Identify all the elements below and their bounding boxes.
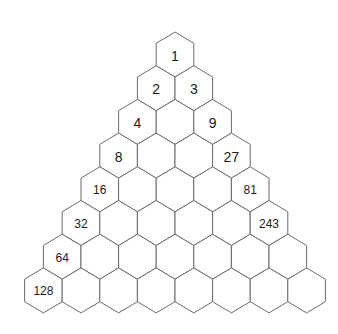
cell-value: 27	[224, 149, 240, 165]
cell-value: 16	[93, 183, 107, 197]
cell-value: 3	[190, 81, 198, 97]
hex-grid: 1234982716813224364128	[0, 0, 338, 334]
hex-pyramid-diagram: 1234982716813224364128	[0, 0, 338, 334]
cell-value: 9	[209, 115, 217, 131]
cell-value: 4	[134, 115, 142, 131]
cell-value: 128	[33, 284, 53, 298]
cell-value: 1	[171, 48, 179, 64]
cell-value: 8	[115, 149, 123, 165]
cell-value: 32	[74, 217, 88, 231]
cell-value: 2	[152, 81, 160, 97]
cell-value: 64	[56, 251, 70, 265]
cell-value: 243	[259, 217, 279, 231]
cell-value: 81	[244, 183, 258, 197]
